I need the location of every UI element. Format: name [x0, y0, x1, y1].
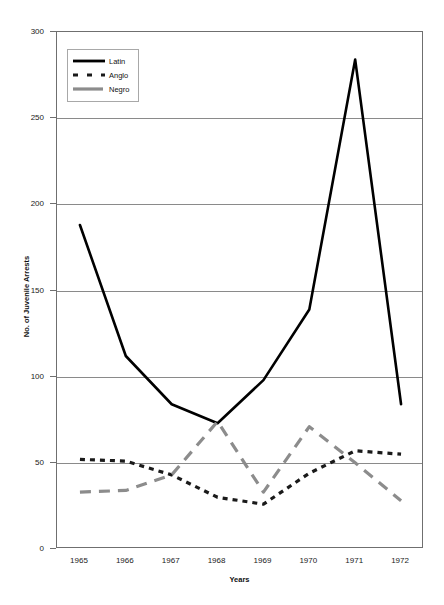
y-axis-tick-mark — [50, 548, 56, 549]
x-axis-tick-label: 1968 — [194, 556, 240, 570]
x-axis-title: Years — [56, 575, 423, 584]
solid-line-swatch — [72, 56, 106, 66]
x-axis-tick-label: 1972 — [377, 556, 423, 570]
x-axis-tick-label-group: 19651966196719681969197019711972 — [56, 556, 423, 570]
y-axis-tick-label: 200 — [0, 199, 44, 208]
legend-label: Anglo — [106, 71, 128, 80]
legend-label: Latin — [106, 57, 125, 66]
series-line-anglo — [80, 451, 401, 504]
y-axis-tick-label: 300 — [0, 27, 44, 36]
y-axis-tick-label: 100 — [0, 371, 44, 380]
x-axis-tick-label: 1970 — [285, 556, 331, 570]
x-axis-tick-label: 1967 — [148, 556, 194, 570]
y-axis-title: No. of Juvenile Arrests — [22, 242, 31, 352]
legend-label: Negro — [106, 85, 129, 94]
series-line-negro — [80, 421, 401, 500]
y-axis-tick-label: 250 — [0, 113, 44, 122]
y-axis-tick-label: 50 — [0, 457, 44, 466]
legend-item-anglo[interactable]: Anglo — [68, 68, 138, 82]
dashed-line-swatch — [72, 84, 106, 94]
x-axis-tick-label: 1965 — [56, 556, 102, 570]
data-series-layer — [57, 32, 424, 549]
x-axis-tick-label: 1966 — [102, 556, 148, 570]
x-axis-tick-label: 1971 — [331, 556, 377, 570]
legend-item-latin[interactable]: Latin — [68, 54, 138, 68]
chart-legend: LatinAngloNegro — [67, 49, 139, 102]
plot-area — [56, 31, 423, 548]
x-axis-tick-label: 1969 — [240, 556, 286, 570]
dotted-line-swatch — [72, 70, 106, 80]
juvenile-arrests-line-chart: 300250200150100500 No. of Juvenile Arres… — [0, 0, 444, 605]
legend-item-negro[interactable]: Negro — [68, 82, 138, 96]
series-line-latin — [80, 60, 401, 424]
y-axis-tick-label: 0 — [0, 544, 44, 553]
